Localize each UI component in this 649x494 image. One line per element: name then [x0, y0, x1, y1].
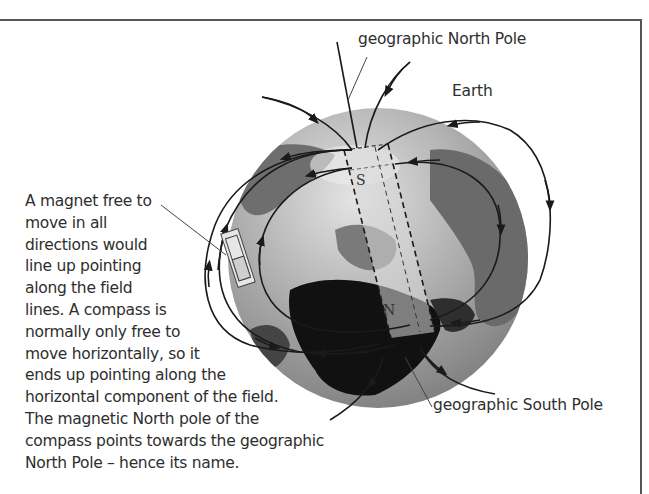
caption-line: normally only free to	[25, 322, 324, 344]
magnet-north-label: N	[383, 302, 395, 318]
caption-line: horizontal component of the field.	[25, 387, 324, 409]
magnet-south-label: S	[356, 172, 366, 188]
caption-line: along the field	[25, 278, 324, 300]
caption-line: North Pole – hence its name.	[25, 453, 324, 475]
caption-line: directions would	[25, 235, 324, 257]
earth-label: Earth	[452, 82, 493, 102]
south-pole-label: geographic South Pole	[433, 396, 603, 416]
caption-line: lines. A compass is	[25, 300, 324, 322]
caption-line: line up pointing	[25, 256, 324, 278]
compass-explanation-caption: A magnet free to move in all directions …	[25, 191, 324, 474]
caption-line: The magnetic North pole of the	[25, 409, 324, 431]
caption-line: ends up pointing along the	[25, 365, 324, 387]
caption-line: compass points towards the geographic	[25, 431, 324, 453]
north-pole-pointer	[348, 57, 367, 100]
caption-line: move in all	[25, 213, 324, 235]
caption-line: A magnet free to	[25, 191, 324, 213]
north-pole-label: geographic North Pole	[358, 30, 526, 50]
caption-line: move horizontally, so it	[25, 344, 324, 366]
